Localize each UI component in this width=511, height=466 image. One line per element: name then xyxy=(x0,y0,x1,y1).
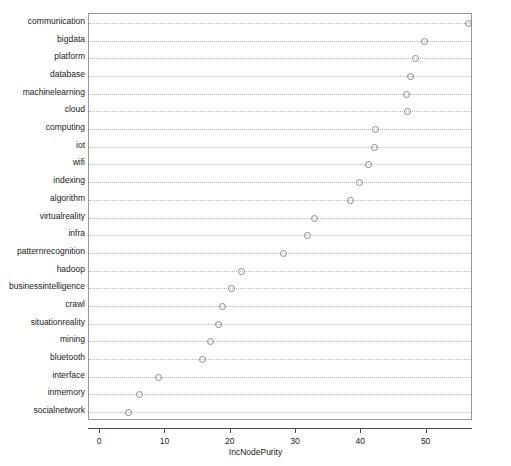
y-axis-tick-label: database xyxy=(1,70,85,79)
data-point xyxy=(219,303,226,310)
grid-row xyxy=(89,235,471,236)
data-point xyxy=(365,161,372,168)
data-point xyxy=(199,356,206,363)
x-axis-tick xyxy=(360,428,361,433)
plot-panel xyxy=(88,13,472,420)
data-point xyxy=(356,179,363,186)
data-point xyxy=(421,38,428,45)
y-axis-tick-label: hadoop xyxy=(1,265,85,274)
y-axis-tick-label: bigdata xyxy=(1,35,85,44)
y-axis-tick-label: virtualreality xyxy=(1,212,85,221)
y-axis-tick-label: inmemory xyxy=(1,388,85,397)
data-point xyxy=(403,91,410,98)
grid-row xyxy=(89,377,471,378)
data-point xyxy=(215,321,222,328)
grid-row xyxy=(89,164,471,165)
y-axis-tick-label: mining xyxy=(1,335,85,344)
grid-row xyxy=(89,23,471,24)
x-axis-tick-label: 20 xyxy=(210,436,250,446)
y-axis-tick-label: iot xyxy=(1,141,85,150)
data-point xyxy=(404,108,411,115)
grid-row xyxy=(89,271,471,272)
grid-row xyxy=(89,394,471,395)
x-axis-tick-label: 10 xyxy=(144,436,184,446)
y-axis-tick-label: computing xyxy=(1,123,85,132)
grid-row xyxy=(89,341,471,342)
x-axis-tick xyxy=(164,428,165,433)
y-axis-tick-label: patternrecognition xyxy=(1,247,85,256)
y-axis-tick-label: indexing xyxy=(1,176,85,185)
x-axis-tick-label: 0 xyxy=(79,436,119,446)
x-axis-title: IncNodePurity xyxy=(0,447,511,457)
grid-row xyxy=(89,41,471,42)
y-axis-tick-label: businessintelligence xyxy=(1,282,85,291)
grid-row xyxy=(89,288,471,289)
data-point xyxy=(465,20,472,27)
grid-row xyxy=(89,200,471,201)
data-point xyxy=(371,144,378,151)
y-axis-labels: communicationbigdataplatformdatabasemach… xyxy=(0,13,85,420)
data-point xyxy=(238,268,245,275)
grid-row xyxy=(89,182,471,183)
x-axis-tick xyxy=(99,428,100,433)
data-point xyxy=(372,126,379,133)
y-axis-tick-label: crawl xyxy=(1,300,85,309)
y-axis-tick-label: cloud xyxy=(1,105,85,114)
x-axis-line xyxy=(88,428,472,429)
grid-row xyxy=(89,324,471,325)
y-axis-tick-label: platform xyxy=(1,52,85,61)
grid-row xyxy=(89,412,471,413)
grid-row xyxy=(89,147,471,148)
y-axis-tick-label: socialnetwork xyxy=(1,406,85,415)
y-axis-tick-label: algorithm xyxy=(1,194,85,203)
x-axis-tick xyxy=(295,428,296,433)
data-point xyxy=(304,232,311,239)
y-axis-tick-label: bluetooth xyxy=(1,353,85,362)
data-point xyxy=(280,250,287,257)
data-point xyxy=(125,409,132,416)
x-axis-tick xyxy=(230,428,231,433)
grid-row xyxy=(89,111,471,112)
data-point xyxy=(155,374,162,381)
y-axis-tick-label: infra xyxy=(1,229,85,238)
variable-importance-dotplot: communicationbigdataplatformdatabasemach… xyxy=(0,0,511,466)
y-axis-tick-label: wifi xyxy=(1,158,85,167)
y-axis-tick-label: interface xyxy=(1,371,85,380)
y-axis-tick-label: communication xyxy=(1,17,85,26)
data-point xyxy=(207,338,214,345)
y-axis-tick-label: situationreality xyxy=(1,318,85,327)
x-axis-tick xyxy=(426,428,427,433)
x-axis-tick-label: 50 xyxy=(406,436,446,446)
data-point xyxy=(412,55,419,62)
grid-row xyxy=(89,218,471,219)
grid-row xyxy=(89,129,471,130)
x-axis-tick-label: 40 xyxy=(340,436,380,446)
grid-row xyxy=(89,359,471,360)
data-point xyxy=(311,215,318,222)
y-axis-tick-label: machinelearning xyxy=(1,88,85,97)
data-point xyxy=(407,73,414,80)
data-point xyxy=(228,285,235,292)
grid-row xyxy=(89,94,471,95)
data-point xyxy=(136,391,143,398)
x-axis-tick-label: 30 xyxy=(275,436,315,446)
grid-row xyxy=(89,306,471,307)
data-point xyxy=(347,197,354,204)
